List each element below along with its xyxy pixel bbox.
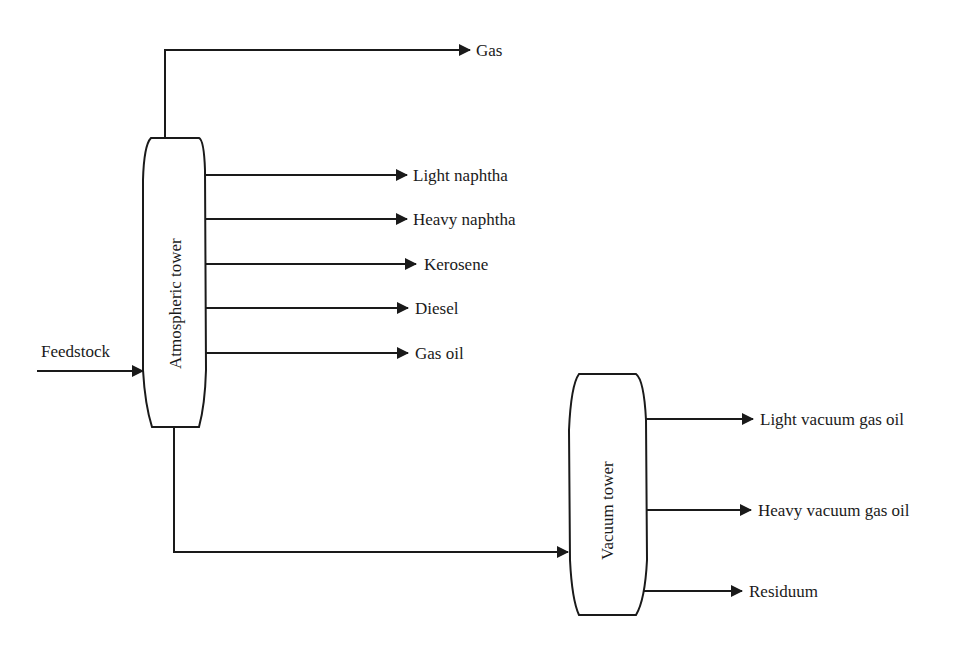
heavy-vacuum-gas-oil-stream: Heavy vacuum gas oil (647, 501, 910, 520)
gas-stream: Gas (165, 41, 502, 138)
heavy-vacuum-gas-oil-label: Heavy vacuum gas oil (758, 501, 910, 520)
diesel-stream: Diesel (206, 299, 459, 318)
feedstock-label: Feedstock (41, 342, 110, 361)
atmospheric-tower: Atmospheric tower (143, 138, 206, 427)
light-naphtha-stream: Light naphtha (205, 166, 508, 185)
residuum-label: Residuum (749, 582, 818, 601)
light-vacuum-gas-oil-stream: Light vacuum gas oil (645, 410, 904, 429)
diesel-label: Diesel (415, 299, 459, 318)
heavy-naphtha-stream: Heavy naphtha (206, 210, 516, 229)
light-naphtha-label: Light naphtha (413, 166, 508, 185)
atmospheric-bottoms-arrow (174, 427, 568, 552)
light-vacuum-gas-oil-label: Light vacuum gas oil (760, 410, 904, 429)
kerosene-stream: Kerosene (206, 255, 488, 274)
vacuum-tower: Vacuum tower (569, 374, 647, 615)
feedstock-stream: Feedstock (37, 342, 143, 371)
kerosene-label: Kerosene (424, 255, 488, 274)
residuum-stream: Residuum (644, 582, 818, 601)
gas-oil-label: Gas oil (415, 344, 464, 363)
gas-arrow (165, 50, 470, 138)
gas-oil-stream: Gas oil (206, 344, 464, 363)
atmospheric-tower-label: Atmospheric tower (166, 238, 185, 369)
vacuum-tower-label: Vacuum tower (598, 461, 617, 560)
gas-label: Gas (476, 41, 502, 60)
heavy-naphtha-label: Heavy naphtha (413, 210, 516, 229)
refinery-distillation-diagram: Feedstock Gas Light naphtha Heavy naphth… (0, 0, 977, 647)
